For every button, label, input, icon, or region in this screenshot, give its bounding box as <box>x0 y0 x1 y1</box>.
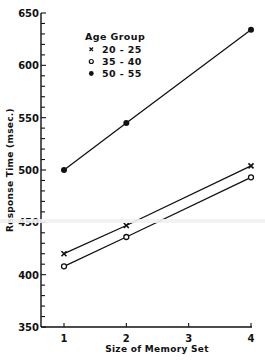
open-circle-marker-icon <box>249 175 254 180</box>
legend-label: 50 - 55 <box>102 68 142 79</box>
open-circle-marker-icon <box>89 60 93 64</box>
filled-circle-marker-icon <box>248 27 254 33</box>
x-marker-icon <box>124 223 129 228</box>
filled-circle-marker-icon <box>123 120 129 126</box>
legend: Age Group20 - 2535 - 4050 - 55 <box>85 31 145 79</box>
open-circle-marker-icon <box>124 234 129 239</box>
x-tick-label: 2 <box>123 333 130 344</box>
y-tick-label: 350 <box>18 322 39 333</box>
legend-label: 35 - 40 <box>102 56 142 67</box>
y-tick-label: 550 <box>18 113 39 124</box>
y-tick-label: 600 <box>18 60 39 71</box>
series-line <box>64 166 251 254</box>
y-tick-label: 500 <box>18 165 39 176</box>
x-tick-label: 1 <box>61 333 68 344</box>
filled-circle-marker-icon <box>89 71 94 76</box>
x-axis: 1234 <box>41 323 255 344</box>
y-axis: 350400450500550600650 <box>18 8 46 333</box>
y-tick-label: 400 <box>18 270 39 281</box>
y-axis-title: Response Time (msec.) <box>5 108 15 232</box>
x-axis-title: Size of Memory Set <box>105 344 209 354</box>
legend-item: 35 - 40 <box>89 56 142 67</box>
x-tick-label: 4 <box>248 333 255 344</box>
x-marker-icon <box>249 163 254 168</box>
legend-item: 50 - 55 <box>89 68 142 79</box>
scan-artifact-band <box>0 219 265 223</box>
y-tick-label: 650 <box>18 8 39 19</box>
series-20-25 <box>62 163 254 256</box>
x-tick-label: 3 <box>185 333 192 344</box>
legend-item: 20 - 25 <box>90 44 142 55</box>
open-circle-marker-icon <box>62 264 67 269</box>
legend-label: 20 - 25 <box>102 44 142 55</box>
line-chart: 350400450500550600650 1234 Age Group20 -… <box>0 0 265 360</box>
filled-circle-marker-icon <box>61 167 67 173</box>
legend-title: Age Group <box>85 31 145 42</box>
x-marker-icon <box>62 251 67 256</box>
